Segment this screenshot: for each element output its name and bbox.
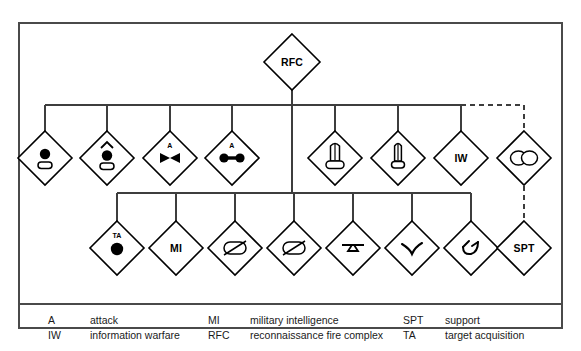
unit-node-mi-label: MI (170, 242, 182, 254)
legend-definition: information warfare (90, 328, 180, 343)
unit-node-target-acquisition-label: TA (112, 232, 121, 239)
unit-node-iw-label: IW (454, 152, 467, 164)
unit-node-oval-slash-b[interactable] (267, 221, 321, 275)
legend-definition: target acquisition (445, 328, 524, 343)
legend-panel: AattackIWinformation warfareMImilitary i… (20, 303, 561, 347)
legend-abbreviation: MI (208, 313, 250, 328)
legend-abbreviation: IW (48, 328, 90, 343)
legend-entry: IWinformation warfare (48, 328, 180, 343)
unit-node-attack-bowtie-label: A (167, 142, 172, 149)
unit-node-attached[interactable] (497, 131, 551, 185)
legend-abbreviation: TA (403, 328, 445, 343)
legend-abbreviation: RFC (208, 328, 250, 343)
unit-node-target-acquisition[interactable] (90, 221, 144, 275)
unit-node-hook[interactable] (444, 221, 498, 275)
unit-node-attack-dumbbell[interactable] (205, 131, 259, 185)
rfc-node-label: RFC (281, 56, 303, 68)
unit-node-missile-narrow[interactable] (371, 131, 425, 185)
legend-column-1: AattackIWinformation warfare (48, 313, 180, 343)
legend-entry: MImilitary intelligence (208, 313, 383, 328)
legend-entry: SPTsupport (403, 313, 524, 328)
unit-node-spt-label: SPT (513, 242, 534, 254)
unit-node-signal[interactable] (326, 221, 380, 275)
unit-node-attack-bowtie[interactable] (143, 131, 197, 185)
legend-definition: reconnaissance fire complex (250, 328, 383, 343)
legend-definition: attack (90, 313, 118, 328)
unit-node-check[interactable] (385, 221, 439, 275)
legend-column-2: MImilitary intelligenceRFCreconnaissance… (208, 313, 383, 343)
diagram-graphics (0, 0, 581, 351)
legend-definition: military intelligence (250, 313, 339, 328)
legend-abbreviation: SPT (403, 313, 445, 328)
unit-node-recon[interactable] (18, 131, 72, 185)
legend-entry: Aattack (48, 313, 180, 328)
legend-entry: RFCreconnaissance fire complex (208, 328, 383, 343)
legend-column-3: SPTsupportTAtarget acquisition (403, 313, 524, 343)
unit-node-oval-slash-a[interactable] (208, 221, 262, 275)
unit-node-missile-wide[interactable] (308, 131, 362, 185)
legend-entry: TAtarget acquisition (403, 328, 524, 343)
legend-abbreviation: A (48, 313, 90, 328)
legend-definition: support (445, 313, 480, 328)
unit-node-recon-air[interactable] (80, 131, 134, 185)
unit-node-attack-dumbbell-label: A (229, 142, 234, 149)
diagram-canvas: RFCAAIWTAMISPT AattackIWinformation warf… (0, 0, 581, 351)
